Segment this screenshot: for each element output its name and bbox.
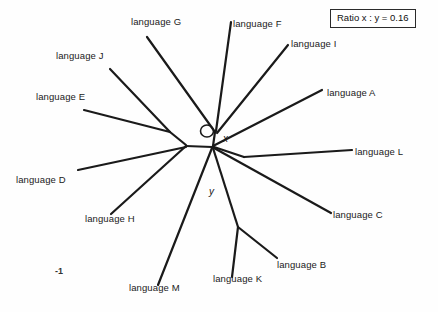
branch-center-to-left-node [186, 146, 212, 147]
branch-left-to-upperleft [170, 132, 186, 145]
branch-x-to-F [216, 22, 231, 131]
branch-upperleft-to-J [110, 69, 170, 132]
branch-y-to-K [232, 227, 238, 277]
tip-label-language-d: language D [16, 174, 66, 185]
scale-marker-label: -1 [55, 266, 63, 276]
tip-label-language-k: language K [213, 273, 262, 284]
phylogenetic-tree-figure: Ratio x : y = 0.16 x y -1 language A lan… [0, 0, 438, 312]
tip-label-language-f: language F [233, 18, 282, 29]
branch-L-extension [244, 150, 352, 157]
branch-center-to-M [158, 148, 212, 285]
ratio-annotation-box: Ratio x : y = 0.16 [330, 9, 416, 28]
tip-label-language-a: language A [327, 87, 376, 98]
tip-label-language-b: language B [277, 259, 326, 270]
tip-label-language-l: language L [355, 146, 403, 157]
branch-left-to-D [78, 147, 186, 170]
branch-left-to-H [111, 146, 186, 214]
tip-label-language-c: language C [333, 209, 383, 220]
x-node-circle-marker [201, 125, 214, 137]
node-label-y: y [209, 186, 214, 197]
branch-y-to-B [238, 227, 277, 258]
tip-label-language-e: language E [36, 91, 85, 102]
branch-upperleft-to-E [84, 110, 170, 132]
tip-label-language-m: language M [129, 282, 180, 293]
branch-x-to-I [217, 45, 288, 133]
tip-label-language-g: language G [131, 16, 181, 27]
tip-label-language-i: language I [291, 38, 336, 49]
node-label-x: x [223, 133, 228, 144]
tip-label-language-h: language H [85, 213, 135, 224]
tip-label-language-j: language J [56, 50, 103, 61]
